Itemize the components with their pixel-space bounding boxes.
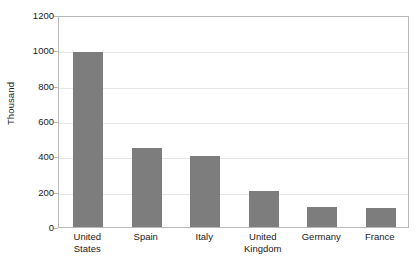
y-axis-tick-label: 1000 xyxy=(2,46,54,56)
y-axis-tick-labels: 020040060080010001200 xyxy=(0,16,54,228)
y-axis-tick-label: 400 xyxy=(2,152,54,162)
bar xyxy=(190,156,220,227)
y-axis-tick-label: 0 xyxy=(2,223,54,233)
bar-slot xyxy=(293,17,352,227)
y-axis-tick-label: 200 xyxy=(2,188,54,198)
y-axis-tick-mark xyxy=(54,228,58,229)
bar xyxy=(132,148,162,228)
x-axis-tick-label: UnitedStates xyxy=(58,231,117,254)
y-axis-tick-label: 1200 xyxy=(2,11,54,21)
x-axis-tick-label-line: France xyxy=(351,231,410,243)
x-axis-tick-label-line: Italy xyxy=(175,231,234,243)
x-axis-tick-label-line: Germany xyxy=(292,231,351,243)
y-axis-tick-label: 800 xyxy=(2,82,54,92)
x-axis-tick-label-line: States xyxy=(58,243,117,255)
x-axis-tick-label: France xyxy=(351,231,410,243)
x-axis-tick-label-line: Spain xyxy=(117,231,176,243)
bar xyxy=(73,52,103,227)
bar-chart: Thousand 020040060080010001200 UnitedSta… xyxy=(0,0,419,278)
bar xyxy=(366,208,396,227)
bar-slot xyxy=(118,17,177,227)
bar xyxy=(307,207,337,227)
x-axis-tick-labels: UnitedStatesSpainItalyUnitedKingdomGerma… xyxy=(58,231,409,275)
bar-slot xyxy=(352,17,411,227)
bar xyxy=(249,191,279,227)
x-axis-tick-label-line: United xyxy=(234,231,293,243)
x-axis-tick-label: UnitedKingdom xyxy=(234,231,293,254)
x-axis-tick-label-line: Kingdom xyxy=(234,243,293,255)
bar-slot xyxy=(59,17,118,227)
bar-slot xyxy=(235,17,294,227)
x-axis-tick-label: Spain xyxy=(117,231,176,243)
plot-area xyxy=(58,16,409,228)
x-axis-tick-label: Italy xyxy=(175,231,234,243)
y-axis-tick-label: 600 xyxy=(2,117,54,127)
x-axis-tick-label: Germany xyxy=(292,231,351,243)
bar-series xyxy=(59,17,408,227)
bar-slot xyxy=(176,17,235,227)
x-axis-tick-label-line: United xyxy=(58,231,117,243)
